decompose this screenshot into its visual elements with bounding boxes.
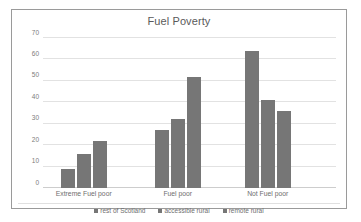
y-axis-tick-label: 70 <box>32 28 39 35</box>
legend-label: rest of Scotland <box>100 207 145 214</box>
bar-group-container <box>43 38 336 188</box>
bar[interactable] <box>277 111 291 188</box>
y-axis-tick-label: 20 <box>32 135 39 142</box>
y-axis-tick-label: 0 <box>35 178 39 185</box>
chart-frame: Fuel Poverty 010203040506070 Extreme Fue… <box>11 9 347 209</box>
category-axis: Extreme Fuel poorFuel poorNot Fuel poor <box>43 190 336 202</box>
y-axis-tick-label: 60 <box>32 49 39 56</box>
bar-group <box>43 38 336 188</box>
legend-label: accessible rural <box>164 207 209 214</box>
legend-item[interactable]: rest of Scotland <box>94 207 145 214</box>
legend-item[interactable]: remote rural <box>223 207 264 214</box>
y-axis-tick-label: 50 <box>32 71 39 78</box>
legend-item[interactable]: accessible rural <box>158 207 209 214</box>
legend-swatch-icon <box>94 209 98 213</box>
legend-separator <box>18 203 340 204</box>
y-axis-tick-label: 30 <box>32 114 39 121</box>
legend-swatch-icon <box>158 209 162 213</box>
legend: rest of Scotlandaccessible ruralremote r… <box>12 207 346 214</box>
y-axis-tick-label: 10 <box>32 157 39 164</box>
plot-area: 010203040506070 <box>43 38 336 188</box>
y-axis-tick-label: 40 <box>32 92 39 99</box>
legend-label: remote rural <box>229 207 264 214</box>
category-axis-label: Not Fuel poor <box>247 190 288 197</box>
chart-title: Fuel Poverty <box>12 15 346 27</box>
legend-swatch-icon <box>223 209 227 213</box>
category-axis-label: Extreme Fuel poor <box>56 190 112 197</box>
category-axis-label: Fuel poor <box>163 190 192 197</box>
bar[interactable] <box>261 100 275 188</box>
bar[interactable] <box>245 51 259 188</box>
